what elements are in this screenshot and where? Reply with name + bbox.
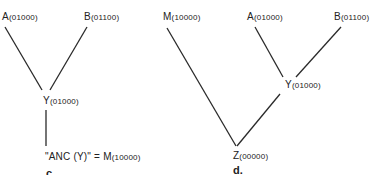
node-c-anc: "ANC (Y)" = M(10000) bbox=[45, 152, 141, 162]
node-name: B bbox=[334, 11, 341, 22]
node-c-A: A(01000) bbox=[2, 12, 38, 22]
anc-prefix: "ANC (Y)" = bbox=[45, 151, 103, 162]
edge-c-A-Y bbox=[5, 27, 42, 90]
node-d-B: B(01100) bbox=[334, 12, 369, 22]
node-d-Y: Y(01000) bbox=[285, 80, 321, 90]
node-code: (01000) bbox=[292, 81, 321, 90]
node-code: (01000) bbox=[50, 97, 79, 106]
node-code: (01000) bbox=[9, 13, 38, 22]
node-name: Y bbox=[43, 95, 50, 106]
node-c-Y: Y(01000) bbox=[43, 96, 79, 106]
node-d-A: A(01000) bbox=[247, 12, 283, 22]
node-code: (01100) bbox=[91, 13, 119, 22]
node-name: A bbox=[2, 11, 9, 22]
panel-label-c: c. bbox=[46, 168, 55, 175]
edge-d-Y-Z bbox=[237, 94, 280, 146]
node-name: M bbox=[163, 11, 172, 22]
node-code: (10000) bbox=[172, 13, 201, 22]
edge-d-M-Z bbox=[167, 28, 236, 146]
panel-label-d: d. bbox=[233, 165, 243, 175]
node-name: A bbox=[247, 11, 254, 22]
node-name: M bbox=[103, 151, 112, 162]
edge-c-B-Y bbox=[50, 27, 87, 90]
edge-d-A-Y bbox=[255, 27, 283, 77]
node-code: (01000) bbox=[254, 13, 283, 22]
node-code: (00000) bbox=[239, 152, 268, 161]
node-code: (01100) bbox=[341, 13, 369, 22]
node-code: (10000) bbox=[112, 153, 141, 162]
node-name: B bbox=[84, 11, 91, 22]
node-d-Z: Z(00000) bbox=[233, 151, 268, 161]
node-name: Y bbox=[285, 79, 292, 90]
node-d-M: M(10000) bbox=[163, 12, 201, 22]
edge-d-B-Y bbox=[296, 27, 341, 77]
node-c-B: B(01100) bbox=[84, 12, 119, 22]
